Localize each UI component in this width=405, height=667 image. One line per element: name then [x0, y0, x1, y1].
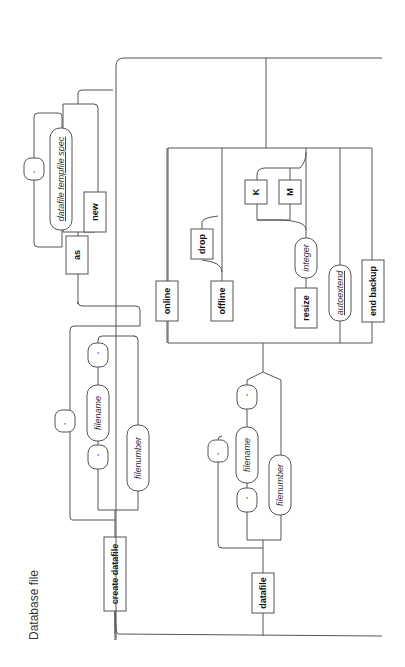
svg-text:online: online [162, 288, 172, 315]
svg-text:filename: filename [93, 396, 103, 430]
svg-text:K: K [251, 188, 261, 195]
svg-text:end backup: end backup [368, 265, 378, 316]
svg-text:filenumber: filenumber [275, 463, 285, 506]
svg-text:,: , [64, 416, 67, 426]
create-datafile-label: create datafile [110, 544, 120, 605]
svg-text:,: , [217, 446, 220, 456]
svg-text:offline: offline [217, 288, 227, 315]
svg-text:integer: integer [301, 243, 311, 272]
svg-text:,: , [33, 164, 36, 174]
svg-text:as: as [72, 250, 82, 260]
svg-text:resize: resize [301, 295, 311, 321]
svg-text:datafile tempfile spec: datafile tempfile spec [56, 136, 66, 221]
svg-text:': ' [246, 392, 248, 402]
svg-text:drop: drop [197, 234, 207, 254]
svg-text:filename: filename [242, 438, 252, 472]
svg-text:autoextend: autoextend [335, 270, 345, 316]
svg-text:': ' [97, 350, 99, 360]
svg-text:new: new [90, 202, 100, 221]
svg-text:': ' [97, 452, 99, 462]
main-entry-line [115, 600, 382, 640]
svg-text:datafile: datafile [258, 577, 268, 609]
syntax-diagram: Database file create datafile ' filename… [0, 0, 405, 667]
create-exit-line [116, 58, 382, 640]
svg-text:': ' [246, 495, 248, 505]
diagram-title: Database file [27, 570, 41, 640]
svg-text:filenumber: filenumber [133, 436, 143, 479]
svg-text:M: M [285, 188, 295, 196]
